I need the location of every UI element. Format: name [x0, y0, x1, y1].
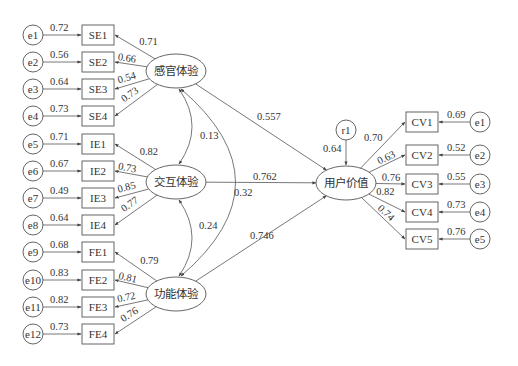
latent-factor-fe: 功能体验	[146, 277, 206, 311]
error-weight-label: 0.56	[50, 49, 68, 60]
residual-weight-label: 0.64	[323, 143, 342, 154]
indicator-label: CV1	[412, 116, 433, 128]
error-term-label: e6	[28, 165, 39, 177]
loading-label: 0.76	[119, 305, 140, 324]
error-term-label: e11	[25, 301, 40, 313]
error-weight-label: 0.69	[447, 109, 465, 120]
error-term-label: e1	[28, 29, 38, 41]
error-term-label: e10	[25, 274, 41, 286]
indicator-label: FE3	[89, 301, 108, 313]
loading-label: 0.76	[382, 172, 401, 183]
loading-label: 0.81	[118, 270, 138, 285]
error-weight-label: 0.55	[447, 171, 465, 182]
loading-label: 0.72	[116, 290, 136, 305]
latent-label: 交互体验	[154, 175, 199, 188]
error-weight-label: 0.49	[50, 185, 68, 196]
error-weight-label: 0.76	[447, 226, 465, 237]
correlation-label: 0.24	[199, 220, 218, 231]
error-term-label: e5	[475, 233, 486, 245]
structural-path-se	[196, 84, 327, 170]
loading-label: 0.71	[139, 36, 157, 47]
indicator-label: CV3	[412, 178, 433, 190]
error-weight-label: 0.72	[50, 22, 68, 33]
error-weight-label: 0.73	[50, 103, 68, 114]
latent-factor-ie: 交互体验	[146, 165, 206, 199]
path-coefficient-label: 0.762	[253, 171, 277, 182]
error-weight-label: 0.67	[50, 158, 68, 169]
path-coefficient-label: 0.746	[250, 230, 274, 241]
error-term-label: e1	[475, 116, 485, 128]
error-weight-label: 0.64	[50, 212, 69, 223]
error-weight-label: 0.73	[50, 321, 68, 332]
indicator-label: CV2	[412, 149, 433, 161]
error-weight-label: 0.83	[50, 267, 68, 278]
loading-label: 0.73	[117, 160, 137, 174]
error-weight-label: 0.68	[50, 239, 68, 250]
error-term-label: e3	[28, 83, 39, 95]
error-weight-label: 0.52	[447, 142, 465, 153]
error-term-label: e4	[475, 206, 486, 218]
error-term-label: e4	[28, 110, 39, 122]
error-term-label: e5	[28, 138, 39, 150]
correlation-label: 0.32	[234, 187, 252, 198]
error-term-label: e2	[28, 56, 38, 68]
correlation-arc-se-ie	[179, 89, 192, 164]
correlation-label: 0.13	[200, 130, 218, 141]
loading-arrow	[376, 183, 405, 184]
correlation-arc-ie-fe	[179, 200, 192, 276]
indicator-label: CV4	[412, 206, 433, 218]
indicator-label: IE1	[90, 138, 106, 150]
error-term-label: e3	[475, 178, 486, 190]
indicator-label: IE3	[90, 192, 106, 204]
residual-r1: r1	[336, 120, 356, 140]
indicator-label: SE4	[89, 110, 108, 122]
error-term-label: e12	[25, 328, 41, 340]
indicator-label: FE2	[89, 274, 107, 286]
indicator-label: FE1	[89, 246, 107, 258]
error-term-label: e7	[28, 192, 39, 204]
loading-label: 0.70	[364, 132, 382, 143]
error-weight-label: 0.64	[50, 76, 69, 87]
error-weight-label: 0.82	[50, 294, 68, 305]
nodes-layer: 感官体验交互体验功能体验用户价值e1SE1e2SE2e3SE3e4SE4e5IE…	[23, 25, 490, 344]
error-term-label: e9	[28, 246, 39, 258]
indicator-label: CV5	[412, 233, 433, 245]
indicator-label: SE3	[89, 83, 108, 95]
error-weight-label: 0.71	[50, 131, 68, 142]
latent-label: 感官体验	[154, 64, 199, 77]
loading-label: 0.85	[116, 180, 137, 195]
latent-label: 用户价值	[324, 176, 369, 189]
loading-label: 0.73	[119, 85, 140, 105]
latent-factor-cv: 用户价值	[316, 166, 376, 200]
latent-label: 功能体验	[154, 287, 199, 300]
indicator-label: SE2	[89, 56, 107, 68]
indicator-label: FE4	[89, 328, 108, 340]
latent-factor-se: 感官体验	[146, 54, 206, 88]
indicator-label: IE4	[90, 219, 106, 231]
loading-label: 0.82	[140, 146, 158, 157]
sem-diagram: 感官体验交互体验功能体验用户价值e1SE1e2SE2e3SE3e4SE4e5IE…	[0, 0, 518, 366]
indicator-label: SE1	[89, 29, 107, 41]
error-term-label: e8	[28, 219, 39, 231]
loading-label: 0.82	[376, 186, 394, 197]
error-term-label: e2	[475, 149, 485, 161]
path-coefficient-label: 0.557	[257, 111, 281, 122]
structural-path-ie	[206, 182, 316, 183]
error-weight-label: 0.73	[447, 199, 465, 210]
loading-label: 0.74	[376, 202, 397, 223]
indicator-label: IE2	[90, 165, 106, 177]
residual-label: r1	[341, 124, 350, 136]
loading-label: 0.77	[119, 194, 140, 214]
loading-label: 0.79	[140, 255, 158, 266]
